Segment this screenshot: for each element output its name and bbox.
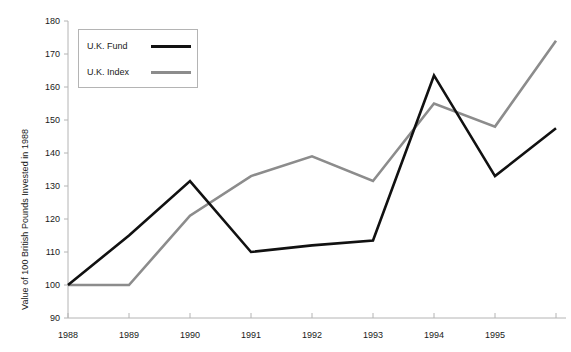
legend-label-uk-fund: U.K. Fund bbox=[87, 41, 128, 51]
x-axis-tick-label: 1992 bbox=[292, 330, 332, 340]
x-axis-tick-label: 1989 bbox=[109, 330, 149, 340]
y-axis-tick-label: 130 bbox=[34, 181, 60, 191]
legend: U.K. Fund U.K. Index bbox=[78, 29, 198, 88]
y-axis-tick-label: 160 bbox=[34, 82, 60, 92]
x-axis-tick-label: 1991 bbox=[231, 330, 271, 340]
x-axis-tick-label: 1995 bbox=[475, 330, 515, 340]
legend-label-uk-index: U.K. Index bbox=[87, 67, 129, 77]
x-axis-tick-label: 1990 bbox=[170, 330, 210, 340]
y-axis-tick-label: 140 bbox=[34, 148, 60, 158]
y-axis-tick-label: 170 bbox=[34, 49, 60, 59]
y-axis-tick-label: 150 bbox=[34, 115, 60, 125]
legend-item-uk-fund: U.K. Fund bbox=[87, 35, 193, 57]
y-axis-tick-label: 120 bbox=[34, 214, 60, 224]
legend-item-uk-index: U.K. Index bbox=[87, 61, 193, 83]
legend-swatch-uk-fund bbox=[151, 45, 191, 48]
x-axis-tick-label: 1994 bbox=[414, 330, 454, 340]
x-axis-tick-label: 1993 bbox=[353, 330, 393, 340]
y-axis-tick-label: 100 bbox=[34, 280, 60, 290]
y-axis-tick-label: 110 bbox=[34, 247, 60, 257]
y-axis-tick-label: 180 bbox=[34, 16, 60, 26]
legend-swatch-uk-index bbox=[151, 71, 191, 74]
chart-container: Value of 100 British Pounds Invested in … bbox=[0, 0, 571, 352]
x-axis-tick-label: 1988 bbox=[48, 330, 88, 340]
y-axis-tick-label: 90 bbox=[34, 313, 60, 323]
series-line-u-k-fund bbox=[68, 75, 556, 285]
